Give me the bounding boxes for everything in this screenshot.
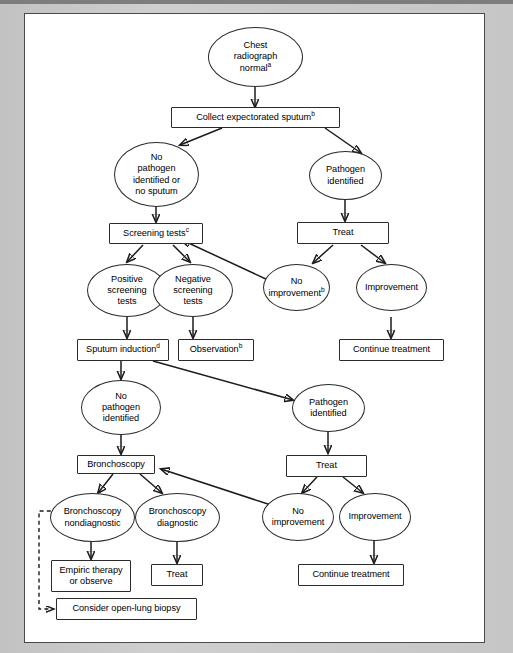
node-label: No pathogen identified or no sputum (133, 152, 180, 197)
node-continue-treatment-upper[interactable]: Continue treatment (339, 339, 444, 361)
node-continue-treatment-bottom[interactable]: Continue treatment (298, 564, 404, 586)
node-label: Empiric therapy or observe (59, 565, 122, 587)
node-label: Pathogen identified (326, 164, 365, 186)
node-pathogen-identified-lower[interactable]: Pathogen identified (292, 384, 365, 432)
node-label: Sputum inductiond (86, 344, 160, 355)
figure-page: Chest radiograph normala Collect expecto… (0, 0, 513, 653)
node-no-pathogen-identified-lower[interactable]: No pathogen identified (81, 380, 161, 435)
flowchart-canvas: Chest radiograph normala Collect expecto… (25, 14, 485, 643)
node-label: Treat (167, 569, 188, 580)
node-label: No pathogen identified (102, 391, 140, 425)
node-negative-screening-tests[interactable]: Negative screening tests (153, 264, 233, 317)
node-label: Continue treatment (312, 569, 389, 580)
node-consider-open-lung-biopsy[interactable]: Consider open-lung biopsy (56, 598, 197, 620)
node-empiric-therapy-or-observe[interactable]: Empiric therapy or observe (51, 560, 131, 592)
node-label: Bronchoscopy (87, 459, 145, 470)
node-label: Bronchoscopy nondiagnostic (64, 506, 122, 528)
node-screening-tests[interactable]: Screening testsc (109, 223, 203, 244)
node-label: Continue treatment (353, 344, 430, 355)
node-label: Positive screening tests (107, 274, 146, 308)
node-label: Improvement (348, 511, 401, 522)
node-no-improvement-lower[interactable]: No improvement (262, 493, 334, 541)
node-collect-expectorated-sputum[interactable]: Collect expectorated sputumb (171, 107, 340, 128)
node-label: Collect expectorated sputumb (196, 112, 315, 123)
node-label: Screening testsc (123, 228, 189, 239)
node-bronchoscopy-nondiagnostic[interactable]: Bronchoscopy nondiagnostic (50, 493, 135, 542)
node-label: Improvement (365, 282, 418, 293)
node-sputum-induction[interactable]: Sputum inductiond (77, 339, 169, 361)
page-mat-top-edge (0, 0, 513, 4)
node-observation[interactable]: Observationb (178, 339, 254, 361)
node-label: Bronchoscopy diagnostic (149, 506, 207, 528)
node-no-improvement-upper[interactable]: No improvementb (263, 264, 330, 311)
node-improvement-upper[interactable]: Improvement (356, 264, 427, 311)
flowchart-figure: Chest radiograph normala Collect expecto… (24, 13, 485, 643)
node-label: Treat (333, 227, 354, 238)
node-bronchoscopy-diagnostic[interactable]: Bronchoscopy diagnostic (135, 493, 220, 542)
node-treat-upper[interactable]: Treat (297, 222, 389, 244)
node-label: No improvement (272, 506, 325, 528)
node-label: Pathogen identified (309, 397, 348, 419)
node-no-pathogen-identified-or-no-sputum[interactable]: No pathogen identified or no sputum (114, 142, 199, 207)
node-treat-bottom[interactable]: Treat (151, 564, 203, 586)
node-label: Negative screening tests (173, 274, 212, 308)
node-chest-radiograph-normal[interactable]: Chest radiograph normala (208, 27, 303, 87)
node-label: Treat (316, 460, 337, 471)
node-label: No improvementb (268, 276, 324, 298)
node-label: Consider open-lung biopsy (72, 603, 180, 614)
node-bronchoscopy[interactable]: Bronchoscopy (77, 455, 155, 474)
node-treat-lower[interactable]: Treat (286, 455, 367, 477)
node-pathogen-identified-upper[interactable]: Pathogen identified (309, 151, 382, 200)
node-label: Observationb (190, 344, 243, 355)
node-label: Chest radiograph normala (234, 40, 277, 74)
node-improvement-lower[interactable]: Improvement (339, 493, 411, 541)
